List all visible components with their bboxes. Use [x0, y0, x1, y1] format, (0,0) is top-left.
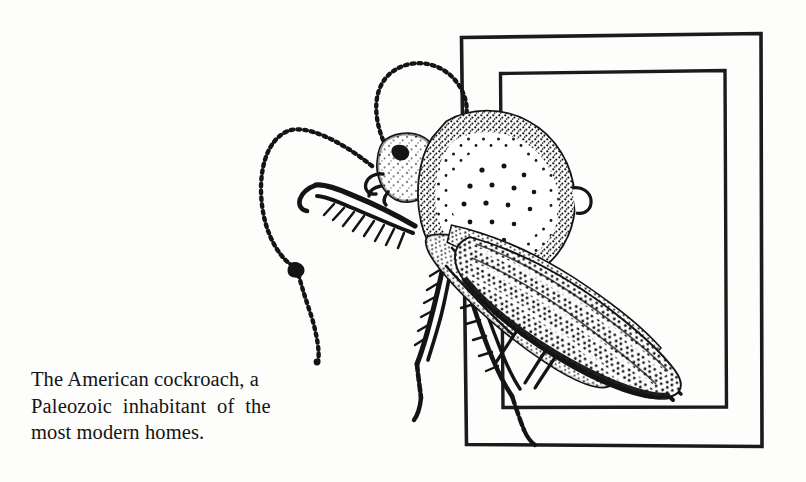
antenna-bases [288, 262, 321, 365]
left-antenna-tip [297, 268, 319, 362]
figure-caption: The American cockroach, a Paleozoic inha… [31, 366, 331, 446]
scanned-book-page: The American cockroach, a Paleozoic inha… [0, 0, 806, 482]
caption-line-1: The American cockroach, a [31, 366, 331, 393]
caption-line-2: Paleozoic inhabitant of the [31, 393, 331, 420]
caption-line-3: most modern homes. [31, 419, 331, 446]
